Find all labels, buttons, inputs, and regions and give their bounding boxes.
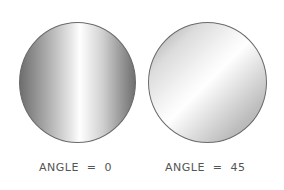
gradient-circle-angle-0 [19, 22, 136, 143]
label-angle-45: ANGLE = 45 [165, 161, 246, 174]
gradient-circle-angle-45 [148, 22, 267, 143]
label-angle-0: ANGLE = 0 [39, 161, 112, 174]
